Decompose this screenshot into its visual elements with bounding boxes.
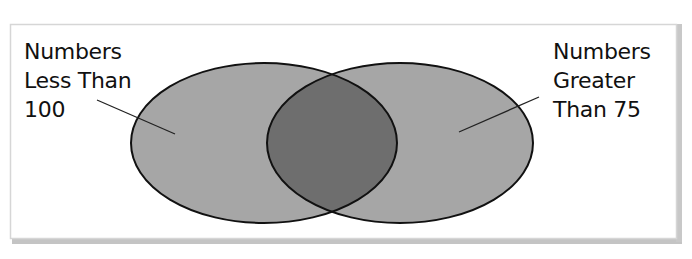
set-b-label: Numbers Greater Than 75 — [553, 37, 651, 124]
set-a-label: Numbers Less Than 100 — [24, 37, 131, 124]
